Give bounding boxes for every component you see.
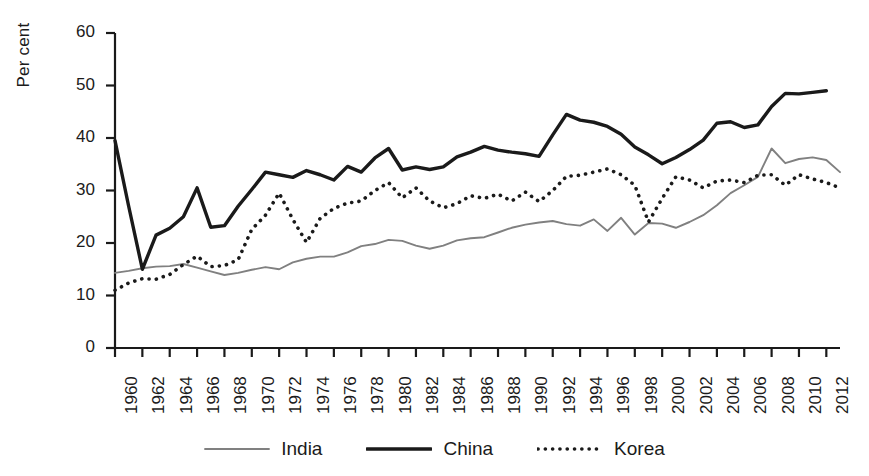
legend-item-china[interactable]: China <box>366 438 493 460</box>
x-tick-label-1980: 1980 <box>396 376 416 414</box>
legend-item-india[interactable]: India <box>204 438 322 460</box>
x-tick-label-1976: 1976 <box>341 376 361 414</box>
x-tick-label-1974: 1974 <box>314 376 334 414</box>
series-line-china <box>115 91 826 270</box>
y-tick-label-10: 10 <box>53 285 95 305</box>
x-tick-label-2010: 2010 <box>806 376 826 414</box>
x-tick-label-2006: 2006 <box>751 376 771 414</box>
x-tick-label-1968: 1968 <box>231 376 251 414</box>
y-tick-label-50: 50 <box>53 75 95 95</box>
chart-figure: Per cent IndiaChinaKorea 010203040506019… <box>0 0 869 476</box>
legend-label-india: India <box>281 438 322 460</box>
x-tick-label-2002: 2002 <box>697 376 717 414</box>
x-tick-label-1972: 1972 <box>286 376 306 414</box>
x-tick-label-2000: 2000 <box>669 376 689 414</box>
y-tick-label-40: 40 <box>53 127 95 147</box>
y-tick-label-60: 60 <box>53 22 95 42</box>
x-tick-label-1960: 1960 <box>122 376 142 414</box>
x-tick-label-2012: 2012 <box>833 376 853 414</box>
x-tick-label-1998: 1998 <box>642 376 662 414</box>
x-tick-label-1970: 1970 <box>259 376 279 414</box>
legend-swatch-india <box>204 443 270 455</box>
y-tick-label-30: 30 <box>53 180 95 200</box>
legend-swatch-korea <box>537 443 603 455</box>
series-line-india <box>115 149 840 276</box>
x-tick-label-1996: 1996 <box>614 376 634 414</box>
x-tick-label-1982: 1982 <box>423 376 443 414</box>
x-tick-label-1984: 1984 <box>450 376 470 414</box>
x-tick-label-1978: 1978 <box>368 376 388 414</box>
x-tick-label-1962: 1962 <box>149 376 169 414</box>
chart-legend: IndiaChinaKorea <box>0 438 869 460</box>
legend-label-korea: Korea <box>614 438 665 460</box>
y-tick-label-20: 20 <box>53 232 95 252</box>
x-tick-label-2008: 2008 <box>779 376 799 414</box>
legend-item-korea[interactable]: Korea <box>537 438 665 460</box>
x-tick-label-1990: 1990 <box>532 376 552 414</box>
x-tick-label-1966: 1966 <box>204 376 224 414</box>
legend-swatch-china <box>366 443 432 455</box>
x-tick-label-1988: 1988 <box>505 376 525 414</box>
x-tick-label-2004: 2004 <box>724 376 744 414</box>
y-tick-label-0: 0 <box>53 337 95 357</box>
legend-label-china: China <box>443 438 493 460</box>
x-tick-label-1992: 1992 <box>560 376 580 414</box>
x-tick-label-1994: 1994 <box>587 376 607 414</box>
series-line-korea <box>115 169 840 290</box>
x-tick-label-1986: 1986 <box>478 376 498 414</box>
x-tick-label-1964: 1964 <box>177 376 197 414</box>
